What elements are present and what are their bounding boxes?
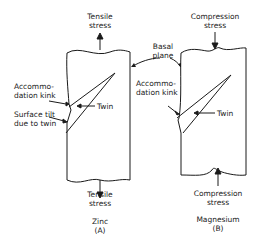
magnesium-top-stress-label: Compression stress: [190, 12, 240, 30]
magnesium-panel-id: (B): [193, 224, 243, 233]
magnesium-twin: [177, 75, 231, 133]
magnesium-bottom-line1: Compression: [193, 189, 243, 198]
magnesium-top-line1: Compression: [190, 12, 240, 21]
magnesium-bottom-line2: stress: [193, 198, 243, 207]
zinc-twin-label: Twin: [97, 102, 113, 111]
kink-b-leader-arrow-icon: [175, 111, 179, 115]
magnesium-kink-line1: Accommo-: [136, 79, 178, 88]
zinc-tilt-label: Surface tilt due to twin: [14, 110, 56, 128]
zinc-kink-label: Accommo- dation kink: [14, 82, 56, 100]
zinc-bottom-line2: stress: [85, 199, 115, 208]
magnesium-caption: Magnesium (B): [193, 215, 243, 233]
magnesium-twin-label: Twin: [217, 109, 233, 118]
zinc-crystal-outline: [67, 50, 130, 182]
zinc-material: Zinc: [85, 217, 115, 226]
zinc-tilt-line1: Surface tilt: [14, 110, 56, 119]
magnesium-material: Magnesium: [193, 215, 243, 224]
zinc-top-line2: stress: [85, 21, 115, 30]
basal-plane-label: Basal plane: [148, 42, 178, 60]
zinc-bottom-stress-label: Tensile stress: [85, 190, 115, 208]
basal-line1: Basal: [148, 42, 178, 51]
zinc-top-line1: Tensile: [85, 12, 115, 21]
zinc-bottom-line1: Tensile: [85, 190, 115, 199]
magnesium-crystal-outline: [178, 48, 246, 176]
magnesium-top-line2: stress: [190, 21, 240, 30]
twin-b-leader-arrow-icon: [194, 111, 198, 115]
tilt-leader-arrow-icon: [63, 119, 67, 123]
magnesium-bottom-stress-label: Compression stress: [193, 189, 243, 207]
zinc-tilt-line2: due to twin: [14, 119, 56, 128]
basal-line2: plane: [148, 51, 178, 60]
magnesium-kink-label: Accommo- dation kink: [136, 79, 178, 97]
zinc-kink-line1: Accommo-: [14, 82, 56, 91]
zinc-kink-line2: dation kink: [14, 91, 56, 100]
tensile-top-arrow-icon: [97, 33, 103, 39]
zinc-caption: Zinc (A): [85, 217, 115, 235]
magnesium-kink-line2: dation kink: [136, 88, 178, 97]
twin-a-leader-arrow-icon: [77, 104, 81, 108]
zinc-top-stress-label: Tensile stress: [85, 12, 115, 30]
zinc-panel-id: (A): [85, 226, 115, 235]
